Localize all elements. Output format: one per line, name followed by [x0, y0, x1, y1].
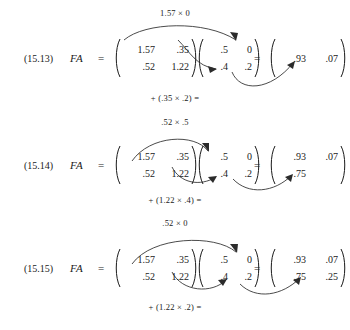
- equation-row-15-13: (15.13) FA = 1.57 .35 .52 1.22: [0, 36, 350, 80]
- paren-left-icon: [112, 248, 121, 288]
- equation-lhs-15-14: FA: [70, 159, 83, 171]
- matrix-cell: .25: [306, 268, 338, 285]
- matrix-cell: .4: [206, 58, 228, 75]
- equation-number-15-13: (15.13): [24, 53, 53, 64]
- matrix-cell: 1.57: [123, 41, 155, 58]
- annotation-top-15-13: 1.57 × 0: [0, 8, 350, 18]
- paren-left-icon: [195, 145, 204, 185]
- paren-left-icon: [267, 145, 276, 185]
- matrix-cell: .93: [278, 148, 306, 165]
- equation-number-15-15: (15.15): [24, 263, 53, 274]
- equation-row-15-14: (15.14) FA = 1.57 .35 .52 1.22: [0, 143, 350, 187]
- annotation-bottom-15-15: + (1.22 × .2) =: [0, 302, 350, 312]
- matrix-f-15-14: 1.57 .35 .52 1.22: [112, 145, 200, 185]
- matrix-cell: 1.57: [123, 148, 155, 165]
- equals-sign-first-15-15: =: [98, 262, 104, 274]
- matrix-cell: 1.22: [155, 268, 189, 285]
- equals-sign-second-15-15: =: [254, 262, 260, 274]
- matrix-cell: 0: [228, 251, 252, 268]
- equation-block-15-15: .52 × 0 (15.15) FA = 1.57 .35 .52 1.22: [0, 208, 350, 330]
- equals-sign-first-15-13: =: [98, 52, 104, 64]
- paren-left-icon: [267, 38, 276, 78]
- equation-number-15-14: (15.14): [24, 160, 53, 171]
- annotation-top-15-14: .52 × .5: [0, 117, 350, 127]
- matrix-cell: 1.22: [155, 58, 189, 75]
- matrix-cell: .4: [206, 165, 228, 182]
- paren-right-icon: [340, 248, 349, 288]
- matrix-cell: .4: [206, 268, 228, 285]
- matrix-cell: .07: [306, 50, 338, 67]
- paren-right-icon: [340, 38, 349, 78]
- matrix-cell: .5: [206, 148, 228, 165]
- matrix-f-15-15: 1.57 .35 .52 1.22: [112, 248, 200, 288]
- matrix-cell: .2: [228, 268, 252, 285]
- matrix-cell: 1.22: [155, 165, 189, 182]
- matrix-cell: .2: [228, 58, 252, 75]
- matrix-cell: .35: [155, 148, 189, 165]
- paren-left-icon: [112, 145, 121, 185]
- paren-left-icon: [195, 38, 204, 78]
- paren-right-icon: [340, 145, 349, 185]
- matrix-cell: .75: [278, 268, 306, 285]
- paren-left-icon: [267, 248, 276, 288]
- paren-left-icon: [112, 38, 121, 78]
- matrix-cell: .35: [155, 41, 189, 58]
- annotation-bottom-15-13: + (.35 × .2) =: [0, 93, 350, 103]
- matrix-a-15-15: .5 0 .4 .2: [195, 248, 263, 288]
- matrix-cell: 0: [228, 148, 252, 165]
- annotation-top-15-15: .52 × 0: [0, 218, 350, 228]
- matrix-cell: .52: [123, 268, 155, 285]
- matrix-cell: .2: [228, 165, 252, 182]
- matrix-cell: .93: [278, 251, 306, 268]
- matrix-cell: .52: [123, 58, 155, 75]
- matrix-a-15-14: .5 0 .4 .2: [195, 145, 263, 185]
- equation-lhs-15-15: FA: [70, 262, 83, 274]
- matrix-cell: .5: [206, 251, 228, 268]
- equation-row-15-15: (15.15) FA = 1.57 .35 .52 1.22: [0, 246, 350, 290]
- equals-sign-first-15-14: =: [98, 159, 104, 171]
- paren-left-icon: [195, 248, 204, 288]
- equation-block-15-14: .52 × .5 (15.14) FA = 1.57 .35 .52 1.22: [0, 105, 350, 213]
- matrix-cell: .07: [306, 251, 338, 268]
- matrix-result-15-15: .93 .07 .75 .25: [267, 248, 349, 288]
- matrix-cell: .5: [206, 41, 228, 58]
- matrix-result-15-13: .93 .07: [267, 38, 349, 78]
- equation-block-15-13: 1.57 × 0 (15.13) FA = 1.57 .35 .52 1.22: [0, 0, 350, 110]
- matrix-a-15-13: .5 0 .4 .2: [195, 38, 263, 78]
- matrix-cell: .35: [155, 251, 189, 268]
- matrix-f-15-13: 1.57 .35 .52 1.22: [112, 38, 200, 78]
- equals-sign-second-15-13: =: [254, 52, 260, 64]
- equals-sign-second-15-14: =: [254, 159, 260, 171]
- matrix-cell: .93: [278, 50, 306, 67]
- matrix-result-15-14: .93 .07 .75: [267, 145, 349, 185]
- matrix-cell: .52: [123, 165, 155, 182]
- document-page: 1.57 × 0 (15.13) FA = 1.57 .35 .52 1.22: [0, 0, 350, 330]
- matrix-cell: 0: [228, 41, 252, 58]
- annotation-bottom-15-14: + (1.22 × .4) =: [0, 195, 350, 205]
- matrix-cell: 1.57: [123, 251, 155, 268]
- matrix-cell: [306, 165, 338, 182]
- matrix-cell: .75: [278, 165, 306, 182]
- matrix-cell: .07: [306, 148, 338, 165]
- equation-lhs-15-13: FA: [70, 52, 83, 64]
